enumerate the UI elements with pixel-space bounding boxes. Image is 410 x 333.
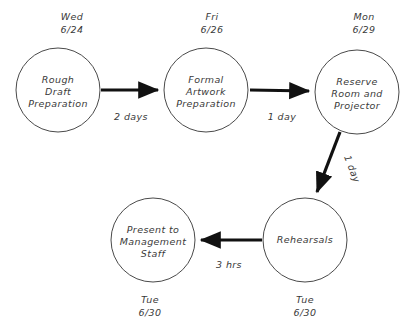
node-date-day-present-management: Tue bbox=[141, 294, 159, 305]
node-date-value-rough-draft: 6/24 bbox=[61, 24, 84, 35]
diagram-canvas: 2 days 1 day 1 day 3 hrs Rough Draft Pre… bbox=[0, 0, 410, 333]
edge-artwork-to-reserve: 1 day bbox=[250, 90, 309, 122]
node-date-day-rough-draft: Wed bbox=[61, 11, 84, 22]
edge-draft-to-artwork: 2 days bbox=[101, 90, 158, 122]
node-date-day-formal-artwork: Fri bbox=[205, 11, 218, 22]
node-date-value-formal-artwork: 6/26 bbox=[201, 24, 224, 35]
node-label-line2: Room and bbox=[331, 88, 383, 99]
network-diagram: 2 days 1 day 1 day 3 hrs Rough Draft Pre… bbox=[0, 0, 410, 333]
node-rough-draft[interactable]: Rough Draft Preparation Wed 6/24 bbox=[16, 11, 100, 132]
node-label-line3: Preparation bbox=[176, 98, 236, 109]
edge-label-1-day-top: 1 day bbox=[268, 111, 297, 122]
node-label-line2: Draft bbox=[45, 86, 72, 97]
node-date-value-rehearsals: 6/30 bbox=[294, 307, 317, 318]
node-label-line1: Formal bbox=[188, 74, 223, 85]
node-label-line2: Management bbox=[120, 236, 187, 247]
node-label-line2: Artwork bbox=[185, 86, 226, 97]
edge-label-1-day-diagonal: 1 day bbox=[342, 153, 362, 184]
edge-arrow-line bbox=[317, 132, 340, 192]
node-label-line1: Present to bbox=[127, 224, 180, 235]
node-date-value-reserve-room: 6/29 bbox=[353, 24, 376, 35]
node-formal-artwork[interactable]: Formal Artwork Preparation Fri 6/26 bbox=[164, 11, 248, 132]
node-date-day-reserve-room: Mon bbox=[353, 11, 374, 22]
node-label-line3: Staff bbox=[141, 248, 167, 259]
edge-label-3-hrs: 3 hrs bbox=[216, 259, 242, 270]
node-date-value-present-management: 6/30 bbox=[139, 307, 162, 318]
node-label-line3: Projector bbox=[334, 100, 381, 111]
edge-rehearsals-to-present: 3 hrs bbox=[201, 240, 262, 270]
node-label-line1: Rough bbox=[42, 74, 75, 85]
node-label-line1: Rehearsals bbox=[277, 234, 333, 245]
node-reserve-room[interactable]: Reserve Room and Projector Mon 6/29 bbox=[315, 11, 399, 134]
node-date-day-rehearsals: Tue bbox=[296, 294, 314, 305]
edge-reserve-to-rehearsals: 1 day bbox=[317, 132, 363, 192]
edge-label-2-days: 2 days bbox=[114, 111, 148, 122]
node-rehearsals[interactable]: Rehearsals Tue 6/30 bbox=[263, 198, 347, 318]
edge-arrow-line bbox=[250, 90, 309, 91]
node-label-line3: Preparation bbox=[28, 98, 88, 109]
node-present-management[interactable]: Present to Management Staff Tue 6/30 bbox=[111, 198, 195, 318]
node-label-line1: Reserve bbox=[336, 76, 377, 87]
